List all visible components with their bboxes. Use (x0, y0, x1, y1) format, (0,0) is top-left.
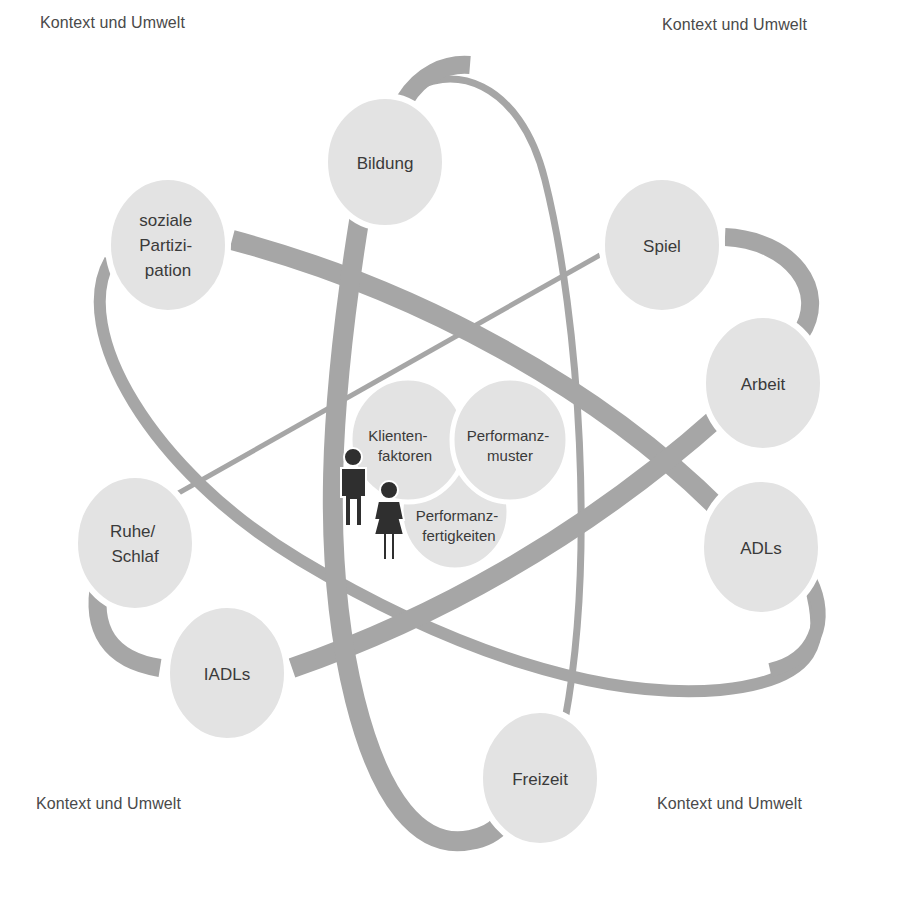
occupation-atom-diagram: Bildung soziale Partizi- pation Spiel Ar… (0, 0, 899, 914)
node-label-soziale-3: pation (145, 261, 191, 280)
node-freizeit[interactable]: Freizeit (480, 710, 600, 846)
svg-text:soziale Partizi-: soziale Partizi- pation (139, 211, 197, 280)
node-label-ruhe: Ruhe/ (110, 522, 156, 541)
node-adls[interactable]: ADLs (701, 479, 821, 615)
node-bildung[interactable]: Bildung (325, 96, 445, 228)
node-label-freizeit: Freizeit (512, 770, 568, 789)
node-label-arbeit: Arbeit (741, 375, 786, 394)
core-label-fertigkeiten-1: Performanz- (416, 507, 499, 524)
node-iadls[interactable]: IADLs (167, 605, 287, 741)
node-ruhe-schlaf[interactable]: Ruhe/ Schlaf (75, 475, 195, 611)
core-label-klienten-2: faktoren (378, 447, 432, 464)
node-label-adls: ADLs (740, 539, 782, 558)
node-soziale-partizipation[interactable]: soziale Partizi- pation (108, 177, 228, 313)
svg-text:IADLs: IADLs (204, 665, 250, 684)
svg-text:Bildung: Bildung (357, 154, 414, 173)
svg-text:Freizeit: Freizeit (512, 770, 568, 789)
svg-text:ADLs: ADLs (740, 539, 782, 558)
node-arbeit[interactable]: Arbeit (703, 315, 823, 451)
core-label-klienten-1: Klienten- (368, 427, 427, 444)
node-label-schlaf: Schlaf (111, 547, 159, 566)
person-male-icon (341, 448, 366, 526)
core-label-muster-2: muster (487, 447, 533, 464)
node-spiel[interactable]: Spiel (602, 177, 722, 313)
node-label-iadls: IADLs (204, 665, 250, 684)
node-label-soziale-2: Partizi- (139, 236, 192, 255)
node-label-spiel: Spiel (643, 237, 681, 256)
core-label-muster-1: Performanz- (467, 427, 550, 444)
node-label-soziale-1: soziale (139, 211, 192, 230)
core-label-fertigkeiten-2: fertigkeiten (422, 527, 495, 544)
node-label-bildung: Bildung (357, 154, 414, 173)
svg-text:Spiel: Spiel (643, 237, 681, 256)
svg-text:Arbeit: Arbeit (741, 375, 786, 394)
